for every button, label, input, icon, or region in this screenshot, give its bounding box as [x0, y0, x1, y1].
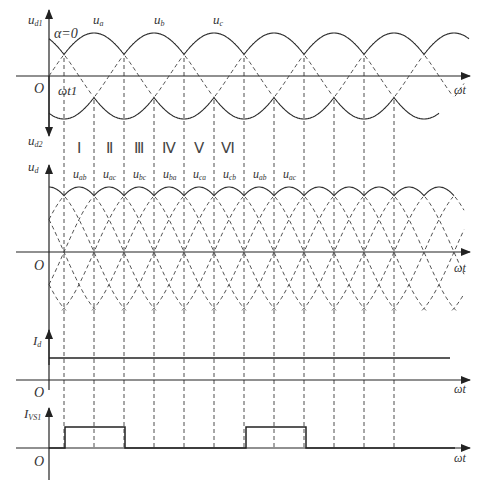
IVS1-label: IVS1: [23, 406, 41, 422]
x-axis-label: ωt: [454, 382, 466, 396]
ud1-envelope: [49, 33, 469, 55]
rectifier-waveform-diagram: ud1α=0uaubucOωt1ωtud2udⅠⅡⅢⅣⅤⅥuabuacubcub…: [0, 0, 491, 493]
origin-label: O: [34, 258, 44, 273]
x-axis-label: ωt: [454, 261, 466, 275]
interval-label: Ⅵ: [221, 140, 235, 156]
line-voltage-dashed: [49, 197, 464, 311]
x-axis-label: ωt: [454, 451, 466, 465]
waveforms: [49, 33, 469, 448]
ud2-label: ud2: [28, 133, 43, 149]
line-voltage-label: uac: [103, 167, 117, 182]
line-voltage-label: uab: [73, 167, 87, 182]
alpha-label: α=0: [54, 26, 78, 41]
omega-t1-label: ωt1: [58, 83, 77, 98]
line-voltage-label: uab: [253, 167, 267, 182]
interval-label: Ⅲ: [134, 140, 144, 156]
origin-label: O: [34, 454, 44, 469]
axes: [16, 10, 470, 480]
interval-label: Ⅰ: [77, 140, 81, 156]
phase-label: uc: [213, 12, 224, 28]
interval-label: Ⅴ: [194, 140, 205, 156]
line-voltage-label: ucb: [223, 167, 236, 182]
line-voltage-dashed: [62, 197, 464, 311]
ud1-label: ud1: [28, 12, 43, 28]
interval-label: Ⅱ: [106, 140, 113, 156]
origin-label: O: [34, 81, 44, 96]
origin-label: O: [34, 385, 44, 400]
x-axis-label: ωt: [454, 83, 466, 97]
line-voltage-label: ubc: [133, 167, 147, 182]
phase-label: ub: [154, 12, 165, 28]
phase-label: ua: [93, 12, 104, 28]
line-voltage-dashed: [49, 197, 464, 311]
ud-envelope: [49, 187, 454, 196]
interval-label: Ⅳ: [162, 140, 176, 156]
ud-label: ud: [28, 159, 40, 175]
labels: ud1α=0uaubucOωt1ωtud2udⅠⅡⅢⅣⅤⅥuabuacubcub…: [23, 12, 466, 469]
line-voltage-dashed: [49, 197, 453, 311]
line-voltage-label: uac: [283, 167, 297, 182]
line-voltage-label: uba: [163, 167, 177, 182]
line-voltage-label: uca: [193, 167, 206, 182]
Id-label: Id: [32, 333, 42, 349]
